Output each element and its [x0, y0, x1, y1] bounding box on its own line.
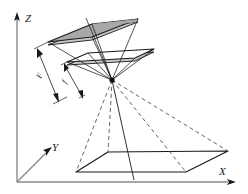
- projection-center-point: [109, 77, 114, 82]
- ray-to-ground-back-right: [112, 80, 228, 151]
- ground-plane-face: [76, 151, 228, 172]
- y-axis-line: [17, 152, 47, 182]
- y-axis-label: Y: [52, 141, 60, 153]
- projection-geometry-diagram: Z Y X: [0, 0, 248, 194]
- dimension-F-extension-bottom: [53, 97, 67, 104]
- ray-to-ground-back-left: [108, 80, 112, 152]
- x-axis-label: X: [218, 165, 227, 177]
- dimension-F: F: [34, 42, 67, 104]
- figure-canvas: Z Y X: [0, 0, 248, 194]
- dimension-F-label: F: [34, 72, 45, 81]
- z-axis-label: Z: [25, 12, 32, 24]
- dimension-f-label: f: [60, 77, 70, 85]
- ground-plane: [76, 151, 228, 172]
- sensor-plane: [67, 49, 154, 65]
- image-plane: [48, 19, 138, 45]
- dimension-f-arrow-bottom: [78, 90, 83, 99]
- dimension-F-arrow-bottom: [53, 93, 59, 103]
- dimension-F-extension-top: [34, 42, 48, 49]
- x-axis-arrowhead: [227, 179, 236, 185]
